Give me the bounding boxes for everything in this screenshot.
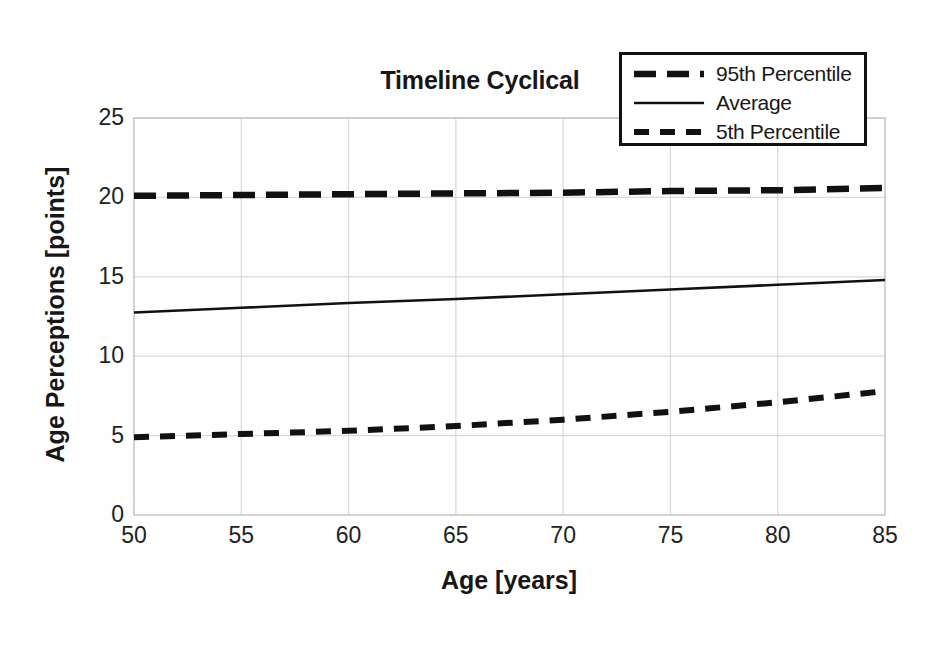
legend-label: Average (716, 91, 792, 115)
gridlines (134, 118, 885, 515)
plot-frame (134, 118, 885, 515)
series-line-1 (134, 280, 885, 313)
legend-label: 95th Percentile (716, 62, 852, 86)
legend-item[interactable]: 5th Percentile (622, 117, 864, 146)
legend-swatch-long-dashed-icon (632, 64, 706, 84)
chart-legend: 95th PercentileAverage5th Percentile (619, 52, 867, 146)
legend-swatch-short-dashed-icon (632, 122, 706, 142)
data-series-group (134, 188, 885, 437)
legend-item[interactable]: 95th Percentile (622, 59, 864, 88)
series-line-2 (134, 391, 885, 437)
legend-item[interactable]: Average (622, 88, 864, 117)
legend-swatch-solid-icon (632, 93, 706, 113)
chart-figure: Timeline Cyclical Age Perceptions [point… (0, 0, 948, 649)
legend-label: 5th Percentile (716, 120, 840, 144)
series-line-0 (134, 188, 885, 196)
